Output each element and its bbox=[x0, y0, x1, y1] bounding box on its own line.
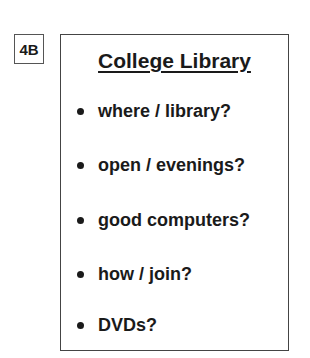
list-item: DVDs? bbox=[77, 315, 157, 336]
prompt-card: College Library where / library? open / … bbox=[60, 34, 289, 351]
item-text: where / library? bbox=[98, 101, 231, 122]
item-text: how / join? bbox=[98, 264, 192, 285]
bullet-icon bbox=[77, 271, 84, 278]
list-item: good computers? bbox=[77, 210, 250, 231]
bullet-icon bbox=[77, 322, 84, 329]
item-text: open / evenings? bbox=[98, 155, 245, 176]
list-item: open / evenings? bbox=[77, 155, 245, 176]
bullet-icon bbox=[77, 162, 84, 169]
card-title: College Library bbox=[61, 49, 288, 73]
item-text: DVDs? bbox=[98, 315, 157, 336]
bullet-icon bbox=[77, 108, 84, 115]
list-item: where / library? bbox=[77, 101, 231, 122]
item-text: good computers? bbox=[98, 210, 250, 231]
list-item: how / join? bbox=[77, 264, 192, 285]
bullet-icon bbox=[77, 217, 84, 224]
section-label: 4B bbox=[14, 34, 44, 64]
